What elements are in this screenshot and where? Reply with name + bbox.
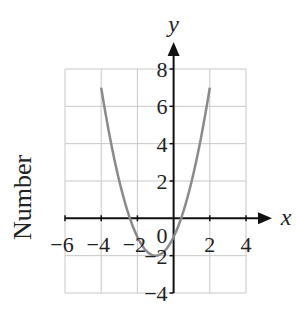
y-tick-label: 8	[157, 57, 168, 82]
y-axis-label: y	[166, 11, 179, 37]
origin-label: 0	[157, 223, 168, 248]
parabola-curve	[101, 88, 210, 256]
y-tick-label: 2	[157, 169, 168, 194]
x-tick-label: 2	[204, 232, 215, 257]
x-axis-label: x	[280, 204, 292, 230]
parabola-line	[101, 88, 210, 256]
side-axis-label: Number	[8, 155, 38, 240]
x-axis-arrow-icon	[258, 212, 272, 224]
x-tick-label: 4	[241, 232, 252, 257]
y-tick-label: 4	[157, 132, 168, 157]
y-tick-label: 6	[157, 94, 168, 119]
y-tick-label: −4	[144, 281, 167, 306]
x-tick-label: −6	[50, 232, 73, 257]
y-axis-arrow-icon	[168, 42, 180, 56]
x-tick-label: −2	[123, 232, 146, 257]
parabola-chart: −6−4−2248642−2−40xy	[0, 0, 299, 314]
x-tick-label: −4	[86, 232, 109, 257]
